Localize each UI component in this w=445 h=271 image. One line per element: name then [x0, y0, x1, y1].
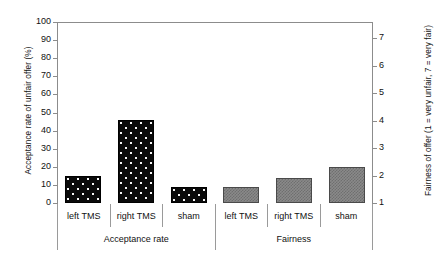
condition-label-3: left TMS [216, 204, 269, 227]
group-label-fairness: Fairness [216, 227, 373, 250]
left-tick-label: 40 [25, 126, 51, 135]
left-tick-label: 10 [25, 180, 51, 189]
right-tick-label: 3 [379, 143, 399, 152]
left-tick [53, 94, 57, 95]
right-tick-label: 2 [379, 171, 399, 180]
left-tick [53, 76, 57, 77]
right-tick [373, 203, 377, 204]
bar-right-right-tms [276, 178, 312, 203]
right-tick-label: 4 [379, 116, 399, 125]
right-tick [373, 148, 377, 149]
right-tick [373, 38, 377, 39]
bar-right-left-tms [223, 187, 259, 203]
plot-inner: 0102030405060708090100 1234567 [57, 22, 373, 204]
condition-label-5: sham [321, 204, 373, 227]
bar-left-right-tms [118, 120, 154, 203]
right-tick-label: 1 [379, 198, 399, 207]
left-tick [53, 167, 57, 168]
chart-figure: Acceptance rate of unfair offer (%) Fair… [0, 0, 445, 271]
left-tick [53, 185, 57, 186]
condition-label-1: right TMS [111, 204, 164, 227]
left-tick [53, 40, 57, 41]
left-tick-label: 100 [25, 17, 51, 26]
condition-label-2: sham [163, 204, 216, 227]
bar-left-left-tms [65, 176, 101, 203]
left-tick [53, 113, 57, 114]
group-label-row: Acceptance rateFairness [58, 227, 372, 250]
right-tick [373, 66, 377, 67]
right-tick [373, 121, 377, 122]
left-tick-label: 60 [25, 89, 51, 98]
left-tick [53, 149, 57, 150]
left-tick-label: 50 [25, 108, 51, 117]
left-tick [53, 131, 57, 132]
left-tick-label: 30 [25, 144, 51, 153]
category-label-table: left TMSright TMSshamleft TMSright TMSsh… [57, 204, 373, 250]
bar-left-sham [171, 187, 207, 203]
plot-area: 0102030405060708090100 1234567 [57, 22, 373, 204]
right-tick [373, 93, 377, 94]
left-tick-label: 80 [25, 53, 51, 62]
right-tick [373, 176, 377, 177]
left-tick-label: 90 [25, 35, 51, 44]
left-tick-label: 0 [25, 198, 51, 207]
condition-label-0: left TMS [58, 204, 111, 227]
right-axis-spine [372, 22, 373, 204]
right-tick-label: 6 [379, 61, 399, 70]
left-tick [53, 22, 57, 23]
right-tick-label: 5 [379, 88, 399, 97]
condition-label-4: right TMS [268, 204, 321, 227]
condition-label-row: left TMSright TMSshamleft TMSright TMSsh… [58, 204, 372, 227]
bar-right-sham [329, 167, 365, 203]
group-label-acceptance-rate: Acceptance rate [58, 227, 216, 250]
left-tick [53, 58, 57, 59]
left-tick-label: 70 [25, 71, 51, 80]
right-axis-title: Fairness of offer (1 = very unfair, 7 = … [424, 16, 433, 206]
x-axis-baseline [57, 22, 373, 23]
left-tick-label: 20 [25, 162, 51, 171]
left-axis-spine [57, 22, 58, 204]
right-tick-label: 7 [379, 33, 399, 42]
